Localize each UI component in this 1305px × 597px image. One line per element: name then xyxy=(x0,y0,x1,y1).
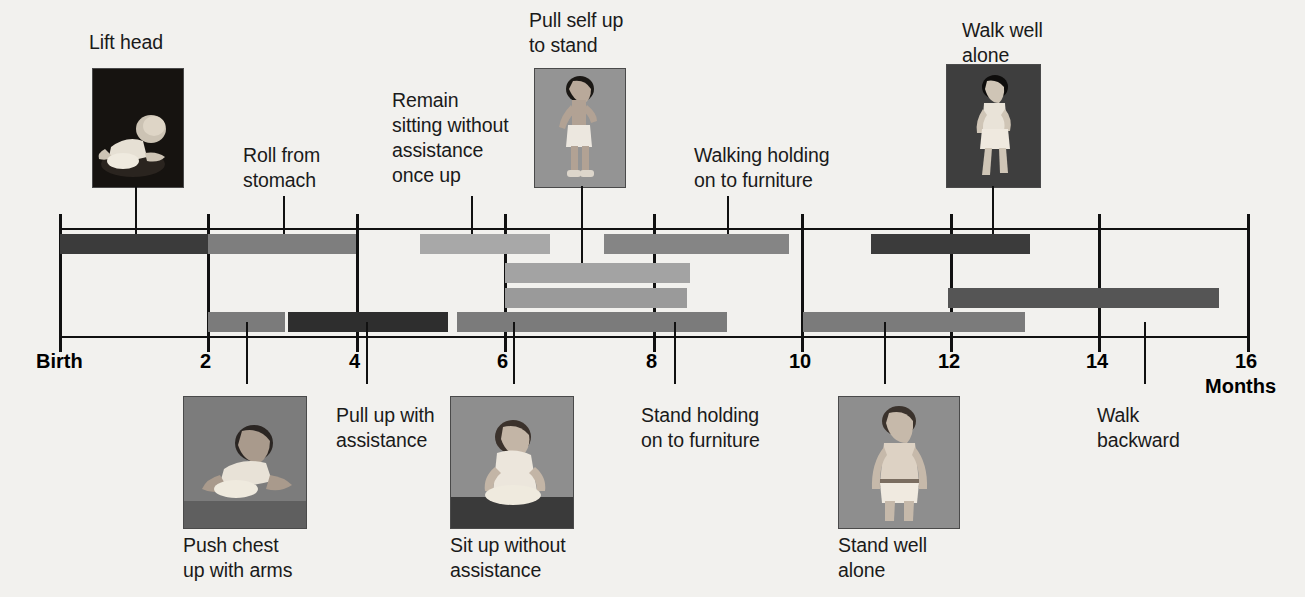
leader-line-stand-holding xyxy=(674,322,676,384)
leader-line-sit-up-without xyxy=(513,322,515,384)
axis-label-2: 2 xyxy=(200,350,211,373)
axis-label-14: 14 xyxy=(1086,350,1108,373)
callout-label-walk-well-alone: Walk well alone xyxy=(962,18,1043,68)
axis-tick-16 xyxy=(1247,214,1250,352)
callout-label-sit-up-without: Sit up without assistance xyxy=(450,533,566,583)
bar-lift-head xyxy=(60,234,208,254)
axis-label-12: 12 xyxy=(938,350,960,373)
axis-unit-label: Months xyxy=(1205,375,1276,398)
callout-label-pull-up-assistance: Pull up with assistance xyxy=(336,403,435,453)
bar-sit-up-without xyxy=(457,312,727,332)
photo-infant-pushing-chest-up xyxy=(183,396,307,529)
milestone-timeline-figure: Lift head Roll from stomach Remain sitti… xyxy=(0,0,1305,597)
callout-label-stand-well-alone: Stand well alone xyxy=(838,533,927,583)
leader-line-pull-up-assistance xyxy=(366,322,368,384)
bar-stand-well-alone xyxy=(803,312,1025,332)
bar-walk-well-alone xyxy=(871,234,1030,254)
bar-stand-holding xyxy=(505,288,687,308)
callout-label-stand-holding: Stand holding on to furniture xyxy=(641,403,760,453)
callout-label-pull-self-up: Pull self up to stand xyxy=(529,8,623,58)
bar-remain-sitting xyxy=(420,234,550,254)
axis-label-birth: Birth xyxy=(36,350,83,373)
axis-label-4: 4 xyxy=(349,350,360,373)
axis-label-10: 10 xyxy=(789,350,811,373)
callout-label-remain-sitting: Remain sitting without assistance once u… xyxy=(392,88,509,188)
photo-infant-sitting-up xyxy=(450,396,574,529)
leader-line-walk-backward xyxy=(1144,322,1146,384)
axis-tick-14 xyxy=(1098,214,1101,352)
callout-label-push-chest-up: Push chest up with arms xyxy=(183,533,292,583)
photo-toddler-standing-alone xyxy=(838,396,960,529)
callout-label-walking-holding: Walking holding on to furniture xyxy=(694,143,829,193)
axis-label-16: 16 xyxy=(1235,350,1257,373)
callout-label-roll-from-stomach: Roll from stomach xyxy=(243,143,320,193)
photo-toddler-walking-alone xyxy=(946,64,1041,188)
bar-walking-holding xyxy=(604,234,789,254)
bar-pull-self-up xyxy=(505,263,690,283)
bar-roll-from-stomach xyxy=(208,234,356,254)
axis-label-6: 6 xyxy=(497,350,508,373)
bar-pull-up-assistance xyxy=(288,312,448,332)
axis-label-8: 8 xyxy=(646,350,657,373)
leader-line-push-chest-up xyxy=(246,322,248,384)
photo-infant-lifting-head xyxy=(92,68,184,188)
leader-line-stand-well-alone xyxy=(884,322,886,384)
callout-label-lift-head: Lift head xyxy=(89,30,163,55)
photo-toddler-pulling-up-to-stand xyxy=(534,68,626,188)
callout-label-walk-backward: Walk backward xyxy=(1097,403,1180,453)
bar-walk-backward xyxy=(948,288,1219,308)
